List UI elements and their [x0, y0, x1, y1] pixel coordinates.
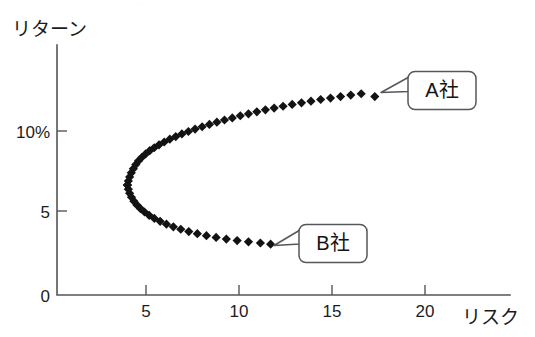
- data-point-marker: [193, 229, 202, 238]
- data-point-marker: [212, 118, 221, 127]
- data-point-marker: [212, 233, 221, 242]
- data-point-marker: [205, 120, 214, 129]
- data-point-marker: [326, 93, 335, 102]
- data-point-marker: [278, 102, 287, 111]
- data-point-marker: [220, 115, 229, 124]
- y-tick-label-5: 5: [41, 203, 50, 222]
- data-point-marker: [184, 227, 193, 236]
- data-point-marker: [288, 100, 297, 109]
- data-point-marker: [370, 92, 379, 101]
- y-tick-label-10: 10%: [16, 123, 50, 142]
- data-point-marker: [228, 113, 237, 122]
- data-point-marker: [252, 107, 261, 116]
- data-point-marker: [233, 236, 242, 245]
- data-point-marker: [261, 105, 270, 114]
- data-point-marker: [297, 98, 306, 107]
- data-point-marker: [306, 97, 315, 106]
- data-point-marker: [270, 103, 279, 112]
- y-axis-title: リターン: [12, 19, 87, 40]
- data-point-marker: [222, 234, 231, 243]
- data-point-marker: [202, 231, 211, 240]
- data-point-marker: [346, 90, 355, 99]
- data-point-marker: [244, 237, 253, 246]
- callout-a-tail: [381, 77, 409, 93]
- data-point-marker: [244, 109, 253, 118]
- callout-company-a[interactable]: A社: [381, 72, 476, 110]
- y-axis-ticks: [57, 131, 67, 211]
- callout-b-tail: [274, 230, 300, 246]
- x-tick-label-20: 20: [416, 302, 435, 321]
- data-point-marker: [256, 238, 265, 247]
- data-point-marker: [336, 92, 345, 101]
- x-axis-ticks: [146, 285, 425, 295]
- x-tick-label-5: 5: [141, 302, 150, 321]
- x-tick-label-10: 10: [230, 302, 249, 321]
- x-tick-label-15: 15: [323, 302, 342, 321]
- callout-a-label: A社: [425, 79, 458, 101]
- callout-company-b[interactable]: B社: [274, 225, 367, 263]
- data-point-marker: [266, 240, 275, 249]
- chart-container: · ·· ·· · ·· · ··· ·· ·· ···· 10% 5 0 5 …: [0, 0, 535, 337]
- series-lower-branch-markers: [123, 181, 275, 249]
- data-point-marker: [176, 225, 185, 234]
- x-axis-title: リスク: [462, 307, 519, 328]
- series-upper-branch-markers: [123, 89, 380, 190]
- risk-return-scatter-plot: 10% 5 0 5 10 15 20 リターン リスク A社 B社: [0, 0, 535, 337]
- y-tick-label-0: 0: [41, 287, 50, 306]
- data-point-marker: [357, 89, 366, 98]
- data-point-marker: [316, 95, 325, 104]
- data-point-marker: [236, 111, 245, 120]
- callout-b-label: B社: [316, 232, 349, 254]
- data-point-marker: [198, 122, 207, 131]
